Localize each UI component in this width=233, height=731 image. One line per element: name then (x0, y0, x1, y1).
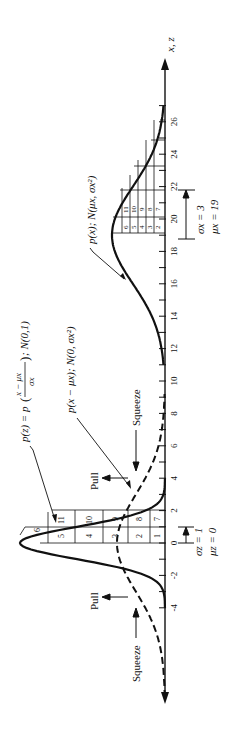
sigma-x-label: σx = 3 (194, 205, 206, 234)
svg-text:(: ( (17, 398, 32, 402)
axis-tick-label: 8 (169, 411, 179, 416)
standard-normal-formula: p(z) = p ( x − μx σx ) ; N(0,1) (13, 321, 36, 443)
axis-tick-label: -4 (169, 604, 179, 612)
axis-tick-label: 2 (169, 508, 179, 512)
svg-text:2: 2 (154, 225, 162, 229)
svg-text:9: 9 (138, 207, 146, 211)
axis-tick-labels: -4-202468101214161820222426 (169, 117, 179, 612)
axis-tick-label: 18 (169, 246, 179, 256)
svg-text:4: 4 (85, 534, 94, 538)
svg-text:2: 2 (135, 534, 144, 538)
svg-text:5: 5 (57, 534, 66, 538)
axis-tick-label: 16 (169, 279, 179, 289)
centered-leader (77, 418, 130, 487)
svg-text:8: 8 (146, 207, 154, 211)
axis-arrow-top-icon (161, 58, 169, 70)
axis-tick-label: 20 (169, 214, 179, 224)
original-formula: p(x); N(μx, σx²) (85, 175, 98, 245)
pull-arrow-top (102, 475, 128, 481)
pull-arrow-bottom (102, 594, 128, 600)
axis-tick-label: 24 (169, 149, 179, 159)
svg-text:10: 10 (130, 206, 138, 214)
axis-tick-label: 14 (169, 311, 179, 321)
svg-text:7: 7 (153, 517, 162, 521)
original-leader (90, 248, 124, 279)
svg-text:8: 8 (135, 517, 144, 521)
svg-text:1: 1 (153, 534, 162, 538)
axis-tick-label: 12 (169, 344, 179, 353)
svg-text:4: 4 (138, 225, 146, 229)
svg-text:σx: σx (26, 378, 36, 386)
axis-tick-label: 4 (169, 475, 179, 480)
svg-text:6: 6 (33, 528, 42, 532)
svg-text:p(z) = p: p(z) = p (18, 406, 31, 443)
squeeze-label-bottom: Squeeze (130, 645, 142, 682)
axis-tick-label: 10 (169, 376, 179, 386)
squeeze-arrow-top (133, 430, 139, 471)
pull-label-bottom: Pull (88, 592, 100, 610)
svg-text:6: 6 (122, 225, 130, 229)
normal-distribution-diagram: x, z -4-202468101214161820222426 1 7 2 8… (0, 0, 233, 731)
svg-text:3: 3 (146, 225, 154, 229)
pull-label-top: Pull (88, 472, 100, 490)
svg-text:11: 11 (122, 206, 130, 213)
sigma-x-marker (178, 190, 195, 239)
original-normal-curve (112, 106, 164, 365)
standard-normal-leader (30, 446, 55, 520)
squeeze-label-top: Squeeze (130, 389, 142, 426)
sigma-z-label: σz = 1 (192, 528, 204, 556)
axis-tick-label: 26 (169, 117, 179, 127)
squeeze-arrow-bottom (133, 608, 139, 638)
svg-text:5: 5 (130, 225, 138, 229)
svg-text:3: 3 (111, 534, 120, 538)
mu-z-label: μz = 0 (206, 527, 218, 557)
centered-formula: p(x − μx); N(0, σx²) (64, 326, 77, 414)
svg-text:; N(0,1): ; N(0,1) (18, 321, 31, 356)
axis-tick-label: -2 (169, 572, 179, 580)
svg-text:7: 7 (154, 207, 162, 211)
svg-text:11: 11 (57, 516, 66, 524)
svg-text:10: 10 (85, 516, 94, 524)
axis-label: x, z (164, 37, 176, 53)
svg-text:x − μx: x − μx (13, 373, 23, 397)
mu-x-label: μx = 19 (208, 199, 220, 235)
axis-tick-label: 22 (169, 182, 179, 191)
svg-text:): ) (17, 357, 32, 361)
axis-tick-label: 0 (169, 540, 179, 545)
axis-tick-label: 6 (169, 443, 179, 448)
